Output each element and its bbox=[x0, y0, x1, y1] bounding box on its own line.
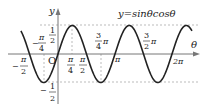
equation-label: y=sinθcosθ bbox=[117, 8, 176, 19]
x-tick-3pi-4-den: 4 bbox=[96, 42, 101, 51]
y-tick-half-den: 2 bbox=[50, 36, 55, 45]
x-tick-pi-4-num: π bbox=[67, 55, 74, 64]
x-tick-2pi: 2π bbox=[172, 57, 184, 66]
x-tick-neg-pi-4-sign: − bbox=[32, 39, 39, 48]
x-tick-3pi-2-num: 3 bbox=[144, 31, 149, 40]
x-tick-pi-2-num: π bbox=[79, 55, 86, 64]
x-tick-pi-2-den: 2 bbox=[80, 66, 85, 75]
x-tick-neg-pi-2-sign: − bbox=[12, 62, 19, 71]
x-axis-label: θ bbox=[191, 39, 197, 50]
x-tick-neg-pi-4-den: 4 bbox=[39, 44, 44, 53]
x-tick-neg-pi-4-num: π bbox=[38, 33, 45, 42]
x-tick-pi: π bbox=[114, 55, 121, 64]
x-tick-3pi-4-suffix: π bbox=[102, 37, 109, 46]
x-tick-3pi-2-den: 2 bbox=[144, 42, 149, 51]
y-axis-arrow-icon bbox=[56, 8, 61, 15]
origin-label: O bbox=[48, 55, 56, 66]
y-tick-neg-half-num: 1 bbox=[50, 82, 55, 91]
x-tick-3pi-2-suffix: π bbox=[150, 37, 157, 46]
x-tick-neg-pi-2-num: π bbox=[20, 55, 27, 64]
y-tick-half-num: 1 bbox=[50, 26, 55, 35]
y-axis-label: y bbox=[48, 5, 55, 16]
y-tick-neg-half-den: 2 bbox=[50, 94, 55, 103]
x-tick-pi-4-den: 4 bbox=[68, 66, 73, 75]
graph: y=sinθcosθ y θ O 1 2 − 1 2 − π 4 − π 2 π… bbox=[0, 0, 202, 107]
x-tick-neg-pi-2-den: 2 bbox=[21, 67, 26, 76]
x-axis-arrow-icon bbox=[193, 52, 200, 57]
y-tick-neg-half-sign: − bbox=[40, 86, 47, 95]
x-tick-3pi-4-num: 3 bbox=[96, 31, 101, 40]
